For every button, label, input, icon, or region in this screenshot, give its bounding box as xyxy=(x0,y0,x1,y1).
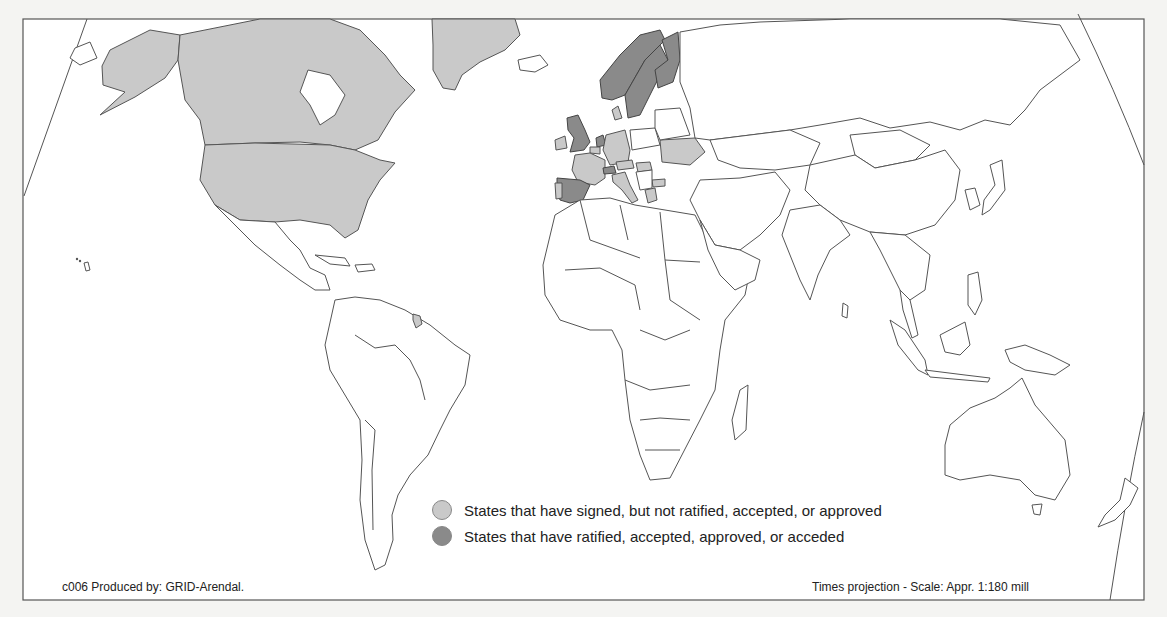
island-hawaii-small xyxy=(76,258,78,260)
island-hawaii-small xyxy=(79,260,81,262)
legend-swatch-signed-icon xyxy=(432,500,452,520)
legend-item-ratified: States that have ratified, accepted, app… xyxy=(432,523,882,549)
legend-swatch-ratified-icon xyxy=(432,526,452,546)
legend-item-signed: States that have signed, but not ratifie… xyxy=(432,497,882,523)
country-bulgaria xyxy=(652,179,665,187)
map-legend: States that have signed, but not ratifie… xyxy=(432,497,882,549)
legend-label-signed: States that have signed, but not ratifie… xyxy=(464,502,882,519)
country-switzerland xyxy=(603,166,616,174)
island-tasmania xyxy=(1032,504,1042,515)
legend-label-ratified: States that have ratified, accepted, app… xyxy=(464,528,844,545)
country-germany xyxy=(603,130,630,165)
country-belgium xyxy=(590,147,600,154)
scale-text: Times projection - Scale: Appr. 1:180 mi… xyxy=(812,580,1029,594)
country-austria xyxy=(616,160,634,170)
caribbean-hispaniola xyxy=(355,264,375,272)
credit-text: c006 Produced by: GRID-Arendal. xyxy=(62,580,244,594)
country-sri-lanka xyxy=(842,303,848,318)
country-portugal xyxy=(555,183,562,199)
